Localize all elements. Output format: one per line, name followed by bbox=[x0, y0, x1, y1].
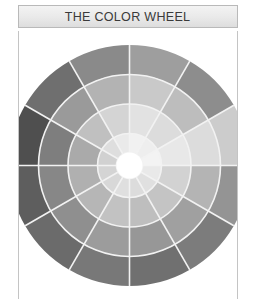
color-wheel-svg bbox=[19, 45, 238, 286]
title-box: THE COLOR WHEEL bbox=[18, 5, 238, 28]
wheel-frame bbox=[18, 31, 238, 299]
wheel-clip bbox=[19, 31, 238, 299]
page-title: THE COLOR WHEEL bbox=[65, 9, 191, 24]
wheel-center-hub bbox=[117, 153, 143, 179]
color-wheel bbox=[19, 45, 238, 286]
color-wheel-page: THE COLOR WHEEL bbox=[0, 0, 257, 301]
